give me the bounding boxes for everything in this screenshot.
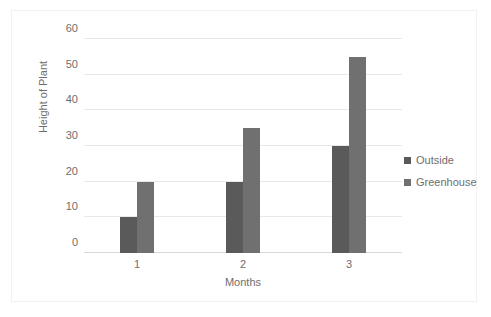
y-tick-label-40: 40 xyxy=(50,94,78,105)
legend-label: Outside xyxy=(416,154,454,166)
y-tick-label-50: 50 xyxy=(50,59,78,70)
bar-outside-1[interactable] xyxy=(120,217,137,253)
x-tick-label-2: 2 xyxy=(213,257,273,271)
bar-greenhouse-2[interactable] xyxy=(243,128,260,253)
bar-group-1 xyxy=(120,39,154,253)
bar-greenhouse-1[interactable] xyxy=(137,182,154,253)
y-tick-label-20: 20 xyxy=(50,166,78,177)
bar-outside-3[interactable] xyxy=(332,146,349,253)
y-tick-label-10: 10 xyxy=(50,201,78,212)
x-tick-label-3: 3 xyxy=(319,257,379,271)
legend-item-outside[interactable]: Outside xyxy=(404,151,477,169)
plot-area xyxy=(84,39,402,253)
legend-item-greenhouse[interactable]: Greenhouse xyxy=(404,173,477,191)
bar-group-2 xyxy=(226,39,260,253)
bar-outside-2[interactable] xyxy=(226,182,243,253)
bar-group-3 xyxy=(332,39,366,253)
legend-swatch-icon xyxy=(404,179,411,186)
x-axis-title: Months xyxy=(84,276,402,288)
bar-greenhouse-3[interactable] xyxy=(349,57,366,253)
x-tick-label-1: 1 xyxy=(107,257,167,271)
y-axis-tick-labels: 0102030405060 xyxy=(48,39,78,253)
y-tick-label-0: 0 xyxy=(50,237,78,248)
chart-frame: Height of Plant 0102030405060 123 Months… xyxy=(11,10,477,302)
legend-swatch-icon xyxy=(404,157,411,164)
legend-label: Greenhouse xyxy=(416,176,477,188)
y-tick-label-30: 30 xyxy=(50,130,78,141)
y-tick-label-60: 60 xyxy=(50,23,78,34)
chart-legend: OutsideGreenhouse xyxy=(404,151,477,195)
x-axis-tick-labels: 123 xyxy=(84,257,402,273)
